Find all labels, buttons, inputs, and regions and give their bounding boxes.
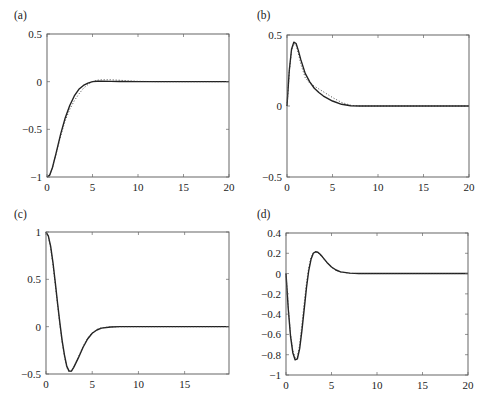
x-tick-label: 10: [133, 378, 145, 390]
x-tick-label: 5: [329, 379, 335, 391]
subplot-c: (c) 051015−0.500.51: [14, 208, 229, 390]
y-tick-label: 0.2: [267, 247, 281, 259]
y-tick-label: −0.6: [261, 328, 281, 340]
y-tick-label: 0: [277, 100, 283, 112]
axes-frame-a: [47, 34, 229, 177]
panel-label-b: (b): [257, 9, 271, 22]
x-tick-label: 5: [330, 181, 336, 193]
series-solid-d: [286, 252, 468, 360]
subplot-a: (a) 05101520−1−0.500.5: [14, 9, 235, 193]
x-tick-label: 5: [90, 181, 96, 193]
x-tick-label: 0: [283, 379, 289, 391]
x-tick-label: 15: [178, 181, 190, 193]
series-dotted-b: [287, 44, 469, 106]
subplot-b: (b) 05101520−0.500.5: [257, 9, 475, 193]
series-dotted-c: [46, 232, 229, 372]
y-tick-label: 0.5: [28, 28, 42, 40]
x-tick-label: 20: [224, 181, 236, 193]
y-tick-label: 0: [276, 268, 282, 280]
panel-label-d: (d): [257, 208, 271, 221]
x-tick-label: 15: [418, 181, 430, 193]
y-tick-label: −1: [269, 369, 281, 381]
x-tick-label: 10: [372, 379, 384, 391]
x-tick-label: 0: [43, 378, 49, 390]
series-solid-a: [47, 81, 229, 177]
panel-label-c: (c): [14, 208, 27, 221]
series-dotted-a: [47, 80, 229, 177]
y-tick-label: 1: [36, 226, 42, 238]
y-tick-label: 0.5: [27, 273, 41, 285]
y-tick-label: −0.5: [21, 368, 41, 380]
y-tick-label: −0.5: [262, 171, 282, 183]
y-tick-label: −1: [30, 171, 42, 183]
figure: (a) 05101520−1−0.500.5 (b) 05101520−0.50…: [0, 0, 486, 402]
y-tick-label: −0.2: [261, 288, 281, 300]
axes-frame-c: [46, 232, 229, 374]
y-tick-label: 0: [36, 321, 42, 333]
series-dotted-d: [286, 252, 468, 358]
x-tick-label: 20: [464, 181, 476, 193]
y-tick-label: −0.5: [22, 123, 42, 135]
panel-label-a: (a): [14, 9, 27, 22]
series-solid-b: [287, 42, 469, 106]
x-tick-label: 0: [284, 181, 290, 193]
x-tick-label: 5: [89, 378, 95, 390]
x-tick-label: 10: [133, 181, 145, 193]
y-tick-label: 0: [37, 76, 43, 88]
x-tick-label: 10: [373, 181, 385, 193]
x-tick-label: 0: [44, 181, 50, 193]
y-tick-label: −0.4: [261, 308, 281, 320]
subplot-d: (d) 05101520−1−0.8−0.6−0.4−0.200.20.4: [257, 208, 474, 391]
x-tick-label: 15: [417, 379, 429, 391]
series-solid-c: [46, 232, 229, 371]
x-tick-label: 20: [463, 379, 475, 391]
x-tick-label: 15: [179, 378, 191, 390]
y-tick-label: −0.8: [261, 349, 281, 361]
y-tick-label: 0.5: [268, 29, 282, 41]
y-tick-label: 0.4: [267, 227, 281, 239]
